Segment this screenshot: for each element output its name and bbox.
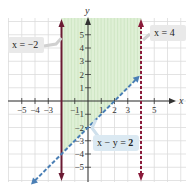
x-axis-label: x <box>178 95 184 106</box>
y-tick-label: 4 <box>80 43 85 53</box>
y-axis-label: y <box>84 5 90 16</box>
y-tick-label: −1 <box>74 109 84 119</box>
x-tick-label: 5 <box>152 105 157 115</box>
x-tick-label: −3 <box>43 105 53 115</box>
arrow-down-icon <box>138 173 144 181</box>
y-tick-label: −2 <box>74 123 84 133</box>
y-tick-label: 3 <box>80 56 85 66</box>
arrow-down-icon <box>59 173 65 181</box>
graph-of-inequalities: −5−4−3−1123554321−1−2−3−4−5 x = −2 x = 4… <box>0 0 192 185</box>
y-tick-label: 5 <box>80 30 85 40</box>
label-x-eq-4: x = 4 <box>154 27 175 38</box>
y-tick-label: 1 <box>80 83 85 93</box>
x-tick-label: 3 <box>126 105 131 115</box>
x-tick-label: 1 <box>99 105 104 115</box>
callout-x-minus-y-eq-2: x − y = 2 <box>92 120 139 151</box>
x-tick-label: −4 <box>30 105 40 115</box>
y-tick-label: −4 <box>74 149 84 159</box>
y-tick-label: 2 <box>80 70 85 80</box>
callout-x-eq-neg2: x = −2 <box>8 37 62 53</box>
label-x-eq-neg2: x = −2 <box>12 39 38 50</box>
x-tick-label: 2 <box>112 105 117 115</box>
x-tick-label: −5 <box>17 105 27 115</box>
x-axis-arrow-icon <box>169 98 176 104</box>
label-x-minus-y-eq-2: x − y = 2 <box>97 137 133 148</box>
callout-x-eq-4: x = 4 <box>143 25 186 41</box>
y-tick-label: −5 <box>74 162 84 172</box>
